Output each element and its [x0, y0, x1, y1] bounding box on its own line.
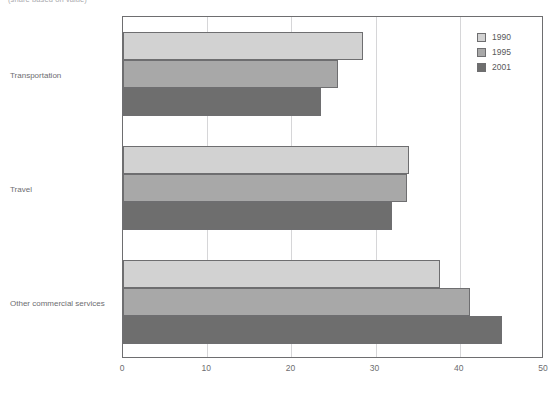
bar-1995-transportation — [123, 60, 338, 88]
legend-swatch-icon-1990 — [477, 33, 486, 42]
legend-label-1990: 1990 — [492, 33, 511, 42]
legend-swatch-icon-1995 — [477, 48, 486, 57]
category-label-other-commercial-services: Other commercial services — [10, 299, 118, 308]
category-label-travel: Travel — [10, 185, 118, 194]
bar-1995-other-commercial-services — [123, 288, 470, 316]
legend-label-1995: 1995 — [492, 48, 511, 57]
legend-swatch-icon-2001 — [477, 63, 486, 72]
bar-2001-travel — [123, 202, 392, 230]
x-axis-tick-label: 20 — [286, 363, 295, 373]
x-axis-tick-label: 40 — [454, 363, 463, 373]
x-axis-tick-label: 0 — [120, 363, 125, 373]
bar-2001-transportation — [123, 88, 321, 116]
bar-1990-transportation — [123, 32, 363, 60]
legend-label-2001: 2001 — [492, 63, 511, 72]
legend-item-1990: 1990 — [477, 33, 511, 42]
bar-1995-travel — [123, 174, 407, 202]
legend-item-2001: 2001 — [477, 63, 511, 72]
chart-legend: 1990 1995 2001 — [477, 33, 511, 72]
bar-2001-other-commercial-services — [123, 316, 502, 344]
x-axis-tick-label: 50 — [538, 363, 547, 373]
x-axis-tick-label: 30 — [370, 363, 379, 373]
bar-1990-other-commercial-services — [123, 260, 440, 288]
category-label-transportation: Transportation — [10, 71, 118, 80]
legend-item-1995: 1995 — [477, 48, 511, 57]
chart-subtitle: (share based on value) — [8, 0, 87, 4]
bar-1990-travel — [123, 146, 409, 174]
x-axis-tick-label: 10 — [201, 363, 210, 373]
